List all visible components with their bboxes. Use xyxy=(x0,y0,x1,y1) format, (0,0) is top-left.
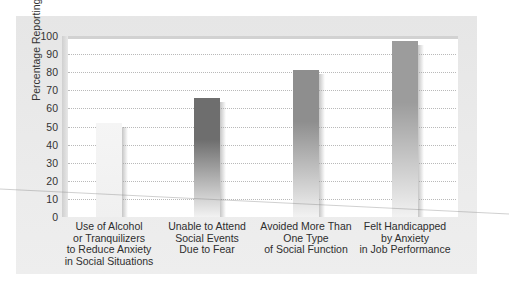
x-category-label-line: Felt Handicapped xyxy=(345,221,465,233)
y-tick-label: 40 xyxy=(28,139,58,151)
bar-shadow xyxy=(319,74,325,217)
bar xyxy=(96,123,122,217)
x-category-label-line: in Social Situations xyxy=(49,256,169,268)
y-tick-label: 30 xyxy=(28,157,58,169)
x-category-label-line: in Job Performance xyxy=(345,244,465,256)
x-category-label: Felt Handicappedby Anxietyin Job Perform… xyxy=(345,221,465,256)
bar xyxy=(392,41,418,217)
y-tick-label: 20 xyxy=(28,175,58,187)
y-tick-label: 10 xyxy=(28,193,58,205)
bar xyxy=(293,70,319,217)
bar-shadow xyxy=(418,45,424,217)
bar-shadow xyxy=(122,127,128,217)
y-axis-label: Percentage Reporting Problems xyxy=(30,0,42,126)
